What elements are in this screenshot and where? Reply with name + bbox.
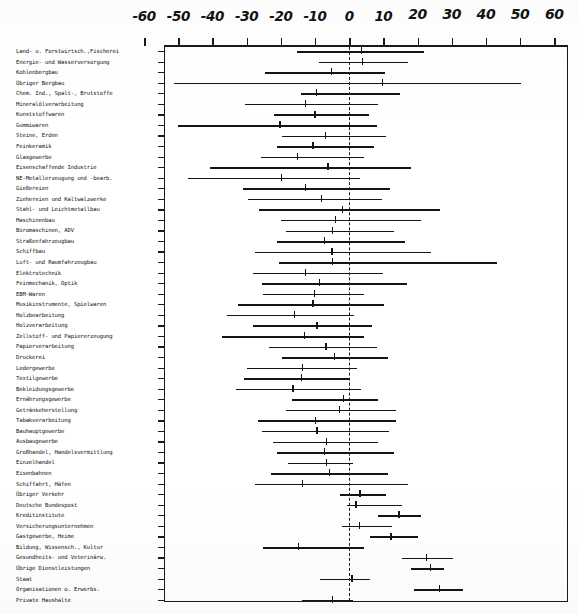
y-axis-tick-mark [158, 220, 164, 221]
chart-row: Organisationen o. Erwerbs. [0, 584, 578, 595]
range-bar [286, 410, 397, 412]
point-estimate-mark [355, 501, 356, 508]
chart-row: Gastgewerbe, Heime [0, 531, 578, 542]
chart-row: Holzverarbeitung [0, 320, 578, 331]
x-axis-tick-mark [520, 38, 521, 46]
chart-row: Ziehereien und Kaltwalzwerke [0, 194, 578, 205]
x-axis-tick-label: 20 [408, 6, 427, 22]
range-bar [258, 420, 396, 422]
chart-row: Private Haushalte [0, 595, 578, 606]
y-axis-tick-mark [158, 178, 164, 179]
y-axis-tick-mark [158, 536, 164, 537]
range-bar [243, 188, 390, 190]
chart-row: Ausbaugewerbe [0, 436, 578, 447]
point-estimate-mark [334, 353, 335, 360]
category-label: Deutsche Bundespost [16, 500, 161, 511]
category-label: Feinmechanik, Optik [16, 278, 161, 289]
chart-row: Staat [0, 574, 578, 585]
category-label: Textilgewerbe [16, 373, 161, 384]
range-bar [277, 241, 404, 243]
range-bar [262, 283, 407, 285]
y-axis-tick-mark [158, 104, 164, 105]
point-estimate-mark [316, 427, 317, 434]
range-bar [253, 325, 372, 327]
chart-row: Stahl- und Leichtmetallbau [0, 204, 578, 215]
chart-row: Übriger Bergbau [0, 78, 578, 89]
category-label: Druckerei [16, 352, 161, 363]
chart-row: Feinkeramik [0, 141, 578, 152]
chart-row: Bauhauptgewerbe [0, 426, 578, 437]
point-estimate-mark [361, 47, 362, 54]
chart-row: Mineralölverarbeitung [0, 99, 578, 110]
category-label: Ausbaugewerbe [16, 436, 161, 447]
point-estimate-mark [305, 269, 306, 276]
point-estimate-mark [302, 364, 303, 371]
point-estimate-mark [343, 395, 344, 402]
y-axis-tick-mark [158, 547, 164, 548]
category-label: Übriger Bergbau [16, 78, 161, 89]
y-axis-tick-mark [158, 125, 164, 126]
chart-row: Schiffbau [0, 246, 578, 257]
x-axis-tick-label: -20 [269, 8, 292, 24]
point-estimate-mark [332, 258, 333, 265]
point-estimate-mark [312, 300, 313, 307]
point-estimate-mark [362, 58, 363, 65]
x-axis-tick-label: 10 [374, 8, 392, 24]
point-estimate-mark [331, 248, 332, 255]
category-label: Büromaschinen, ADV [16, 225, 161, 236]
x-axis-tick-label: 50 [511, 6, 530, 22]
category-label: Großhandel, Handelsvermittlung [16, 447, 161, 458]
point-estimate-mark [390, 533, 391, 540]
chart-row: EBM-Waren [0, 289, 578, 300]
category-label: Ziehereien und Kaltwalzwerke [16, 194, 161, 205]
category-label: Versicherungsunternehmen [16, 521, 161, 532]
range-bar [282, 136, 387, 138]
category-rows-group: Land- u. Forstwirtsch.,FischereiEnergie-… [0, 46, 578, 602]
point-estimate-mark [279, 121, 280, 128]
point-estimate-mark [324, 448, 325, 455]
point-estimate-mark [301, 374, 302, 381]
y-axis-tick-mark [158, 283, 164, 284]
x-axis-tick-label: -10 [303, 8, 326, 24]
chart-row: Holzbearbeitung [0, 310, 578, 321]
y-axis-tick-mark [158, 336, 164, 337]
chart-row: Kunststoffwaren [0, 109, 578, 120]
point-estimate-mark [316, 89, 317, 96]
category-label: Straßenfahrzeugbau [16, 236, 161, 247]
range-bar [255, 252, 431, 254]
range-bar [279, 262, 496, 264]
category-label: Übriger Verkehr [16, 489, 161, 500]
point-estimate-mark [316, 322, 317, 329]
chart-row: Musikinstrumente, Spielwaren [0, 299, 578, 310]
chart-row: Glasgewerbe [0, 152, 578, 163]
range-bar [262, 431, 389, 433]
range-bar [286, 231, 394, 233]
point-estimate-mark [335, 216, 336, 223]
y-axis-tick-mark [158, 557, 164, 558]
x-axis-tick-mark [383, 38, 384, 46]
point-estimate-mark [314, 290, 315, 297]
chart-row: Land- u. Forstwirtsch.,Fischerei [0, 46, 578, 57]
point-estimate-mark [326, 459, 327, 466]
range-bar [253, 273, 383, 275]
range-bar [227, 315, 354, 317]
point-estimate-mark [426, 554, 427, 561]
point-estimate-mark [294, 311, 295, 318]
chart-row: Eisenbahnen [0, 468, 578, 479]
y-axis-tick-mark [158, 579, 164, 580]
point-estimate-mark [302, 480, 303, 487]
point-estimate-mark [430, 564, 431, 571]
point-estimate-mark [327, 163, 328, 170]
category-label: Feinkeramik [16, 141, 161, 152]
point-estimate-mark [321, 195, 322, 202]
y-axis-tick-mark [158, 294, 164, 295]
y-axis-tick-mark [158, 600, 164, 601]
y-axis-tick-mark [158, 484, 164, 485]
y-axis-tick-mark [158, 199, 164, 200]
category-label: NE-Metallerzeugung und -bearb. [16, 173, 161, 184]
category-label: Gießereien [16, 183, 161, 194]
range-bar [274, 114, 369, 116]
chart-row: Feinmechanik, Optik [0, 278, 578, 289]
y-axis-tick-mark [158, 410, 164, 411]
x-axis-tick-mark [247, 38, 248, 46]
